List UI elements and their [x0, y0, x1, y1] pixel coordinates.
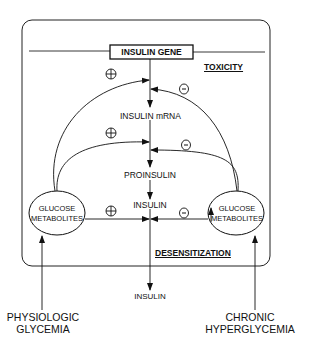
- left-arc-to-proinsulin: [57, 142, 149, 191]
- chronic-line2: HYPERGLYCEMIA: [200, 323, 300, 335]
- physiologic-line2: GLYCEMIA: [2, 323, 84, 335]
- insulin-output-label: INSULIN: [130, 292, 170, 302]
- insulin-gene-label: INSULIN GENE: [110, 47, 193, 57]
- chronic-hyperglycemia-label: CHRONIC HYPERGLYCEMIA: [200, 311, 300, 335]
- left-node-line1: GLUCOSE: [29, 204, 85, 214]
- minus-sign-icon: [180, 208, 189, 218]
- insulin-mrna-label: INSULIN mRNA: [120, 111, 180, 121]
- minus-sign-icon: [180, 84, 189, 94]
- right-node-line1: GLUCOSE: [208, 204, 266, 214]
- toxicity-label: TOXICITY: [204, 62, 243, 72]
- physiologic-glycemia-label: PHYSIOLOGIC GLYCEMIA: [2, 311, 84, 335]
- left-node-label: GLUCOSE METABOLITES: [29, 204, 85, 224]
- desensitization-label: DESENSITIZATION: [155, 248, 231, 258]
- insulin-inner-label: INSULIN: [130, 200, 170, 210]
- minus-sign-icon: [182, 140, 191, 150]
- plus-sign-icon: [106, 69, 116, 79]
- plus-sign-icon: [106, 206, 116, 216]
- physiologic-line1: PHYSIOLOGIC: [2, 311, 84, 323]
- right-node-line2: METABOLITES: [208, 214, 266, 224]
- left-node-line2: METABOLITES: [29, 214, 85, 224]
- proinsulin-label: PROINSULIN: [120, 170, 180, 180]
- chronic-line1: CHRONIC: [200, 311, 300, 323]
- plus-sign-icon: [106, 128, 116, 138]
- right-node-label: GLUCOSE METABOLITES: [208, 204, 266, 224]
